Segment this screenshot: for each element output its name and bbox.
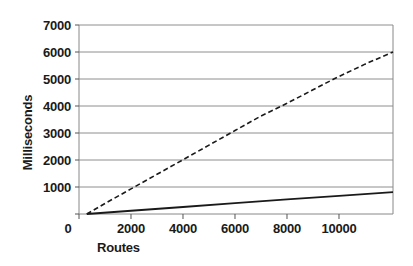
y-tick-label: 6000 xyxy=(0,45,71,60)
x-tick-label: 4000 xyxy=(169,221,197,236)
y-axis-title: Milliseconds xyxy=(20,78,35,188)
y-tick-label: 5000 xyxy=(0,72,71,87)
y-tick-label: 2000 xyxy=(0,153,71,168)
y-tick-label: 3000 xyxy=(0,126,71,141)
y-tick-label: 7000 xyxy=(0,18,71,33)
series-line-solid-series xyxy=(87,192,393,214)
chart-figure: 1000200030004000500060007000 02000400060… xyxy=(0,0,413,266)
y-tick-label: 1000 xyxy=(0,180,71,195)
x-tick-label: 8000 xyxy=(273,221,301,236)
gridlines xyxy=(79,25,393,187)
x-tick-marks xyxy=(79,214,339,219)
y-tick-label: 4000 xyxy=(0,99,71,114)
x-tick-label: 2000 xyxy=(117,221,145,236)
x-axis-title: Routes xyxy=(97,240,140,255)
x-tick-label: 0 xyxy=(64,221,71,236)
axis-lines xyxy=(79,25,393,214)
x-tick-label: 10000 xyxy=(321,221,356,236)
x-tick-label: 6000 xyxy=(221,221,249,236)
y-tick-marks xyxy=(75,25,79,214)
